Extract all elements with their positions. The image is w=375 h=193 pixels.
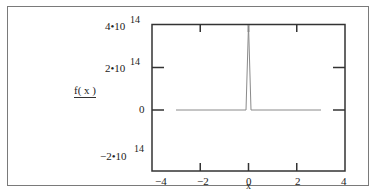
y-tick-label: 4•10 bbox=[105, 20, 125, 32]
y-tick-exp: 14 bbox=[130, 56, 140, 67]
series-line bbox=[176, 25, 321, 110]
y-tick-label: 0 bbox=[139, 103, 145, 115]
x-tick-label: −4 bbox=[155, 175, 167, 187]
y-ticks bbox=[152, 68, 345, 111]
y-tick-label: 2•10 bbox=[105, 62, 125, 74]
y-tick-exp: 14 bbox=[130, 14, 140, 25]
x-tick-label: −2 bbox=[197, 175, 209, 187]
y-tick-label: −2•10 bbox=[100, 150, 127, 162]
x-ticks bbox=[200, 25, 297, 172]
x-tick-label: 2 bbox=[295, 175, 301, 187]
y-tick-exp: 14 bbox=[134, 143, 144, 154]
plot-area bbox=[0, 0, 375, 193]
x-axis-label: x bbox=[246, 180, 251, 191]
x-tick-label: 4 bbox=[341, 175, 347, 187]
axes-box bbox=[152, 25, 345, 172]
y-axis-label: f( x ) bbox=[74, 84, 96, 98]
